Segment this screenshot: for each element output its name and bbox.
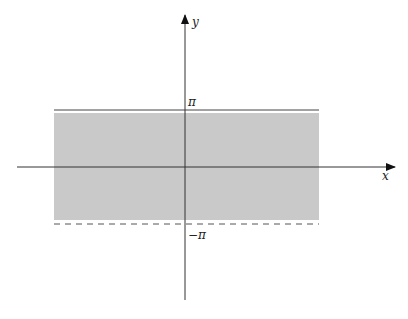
neg-pi-label: −π <box>188 228 207 242</box>
y-axis-label: y <box>191 15 199 29</box>
x-axis-label: x <box>382 169 389 183</box>
pi-label: π <box>187 95 197 109</box>
region-diagram: x y π −π <box>0 0 408 319</box>
